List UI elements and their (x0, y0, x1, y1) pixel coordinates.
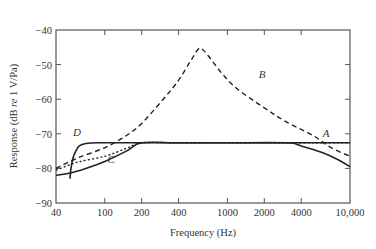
x-axis-title: Frequency (Hz) (170, 227, 237, 239)
x-tick-label: 100 (97, 207, 113, 218)
curve-c (56, 142, 350, 175)
y-tick-label: −70 (36, 129, 52, 140)
plot-frame (56, 30, 350, 203)
curve-b (56, 48, 350, 169)
y-tick-label: −80 (36, 163, 52, 174)
curve-label-b: B (259, 68, 266, 80)
y-tick-label: −90 (36, 198, 52, 209)
y-tick-label: −50 (36, 60, 52, 71)
x-tick-label: 2000 (254, 207, 275, 218)
y-axis-title-part: 1 V/Pa) (8, 63, 20, 98)
x-tick-label: 10,000 (336, 207, 365, 218)
y-tick-label: −40 (36, 25, 52, 36)
x-tick-label: 200 (134, 207, 150, 218)
curve-label-a: A (322, 127, 330, 139)
plot-border (56, 30, 350, 203)
frequency-response-chart: 4010020040010002000400010,000 −40−50−60−… (0, 0, 376, 249)
x-tick-label: 1000 (217, 207, 238, 218)
y-axis-ticks: −40−50−60−70−80−90 (36, 25, 350, 209)
curve-label-c: C (107, 153, 115, 165)
x-axis-ticks: 4010020040010002000400010,000 (51, 30, 365, 218)
x-tick-label: 40 (51, 207, 62, 218)
y-axis-title: Response (dB re 1 V/Pa) (8, 63, 20, 168)
curve-labels: ABCD (72, 68, 330, 165)
y-tick-label: −60 (36, 94, 52, 105)
y-axis-title-part: Response (dB (8, 107, 20, 168)
response-curves (56, 48, 350, 179)
x-tick-label: 4000 (291, 207, 312, 218)
x-tick-label: 400 (171, 207, 187, 218)
curve-label-d: D (72, 126, 81, 138)
